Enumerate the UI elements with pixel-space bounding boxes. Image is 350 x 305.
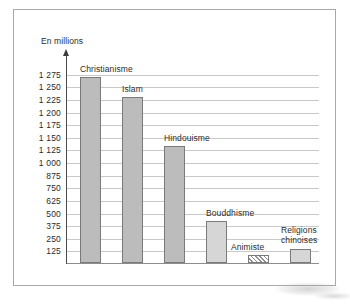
gridline bbox=[67, 125, 319, 126]
bar-christianisme bbox=[80, 77, 101, 263]
bar-label-animiste: Animiste bbox=[231, 242, 264, 252]
y-axis-tick-label: 750 bbox=[46, 183, 61, 193]
bar-label-religions-chinoises: Religions chinoises bbox=[281, 225, 333, 245]
gridline bbox=[67, 188, 319, 189]
bar-religions-chinoises bbox=[290, 249, 311, 263]
gridline bbox=[67, 214, 319, 215]
bar-animiste bbox=[248, 255, 269, 263]
figure-frame: En millions 1 2751 2501 2251 2001 1751 1… bbox=[13, 9, 336, 286]
y-axis-tick-label: 500 bbox=[46, 209, 61, 219]
y-axis-tick-label: 1 250 bbox=[39, 82, 61, 92]
gridline bbox=[67, 87, 319, 88]
gridline bbox=[67, 176, 319, 177]
bar-label-bouddhisme: Bouddhisme bbox=[206, 208, 254, 218]
gridline bbox=[67, 201, 319, 202]
gridline bbox=[67, 150, 319, 151]
x-axis-baseline bbox=[67, 263, 319, 264]
bar-chart: En millions 1 2751 2501 2251 2001 1751 1… bbox=[14, 10, 337, 287]
gridline bbox=[67, 100, 319, 101]
gridline bbox=[67, 251, 319, 252]
y-axis-tick-labels: 1 2751 2501 2251 2001 1751 1501 1251 000… bbox=[14, 62, 61, 264]
y-axis-tick-label: 875 bbox=[46, 171, 61, 181]
bar-label-islam: Islam bbox=[122, 84, 143, 94]
y-axis-unit-label: En millions bbox=[41, 36, 83, 46]
y-axis-tick-label: 1 200 bbox=[39, 108, 61, 118]
bar-bouddhisme bbox=[206, 221, 227, 263]
bar-islam bbox=[122, 97, 143, 263]
y-axis-tick-label: 375 bbox=[46, 221, 61, 231]
bar-label-hindouisme: Hindouisme bbox=[164, 133, 210, 143]
y-axis-tick-label: 1 125 bbox=[39, 145, 61, 155]
gridline bbox=[67, 113, 319, 114]
y-axis-tick-label: 1 275 bbox=[39, 70, 61, 80]
y-axis-tick-label: 1 175 bbox=[39, 120, 61, 130]
bar-label-christianisme: Christianisme bbox=[80, 64, 133, 74]
y-axis-tick-label: 125 bbox=[46, 246, 61, 256]
y-axis-tick-label: 1 000 bbox=[39, 158, 61, 168]
gridline bbox=[67, 75, 319, 76]
plot-area: ChristianismeIslamHindouismeBouddhismeAn… bbox=[67, 62, 319, 264]
y-axis-tick-label: 625 bbox=[46, 196, 61, 206]
gridline bbox=[67, 163, 319, 164]
y-axis-tick-label: 1 225 bbox=[39, 95, 61, 105]
y-axis-tick-label: 1 150 bbox=[39, 133, 61, 143]
y-axis-tick-label: 250 bbox=[46, 234, 61, 244]
bar-hindouisme bbox=[164, 146, 185, 263]
